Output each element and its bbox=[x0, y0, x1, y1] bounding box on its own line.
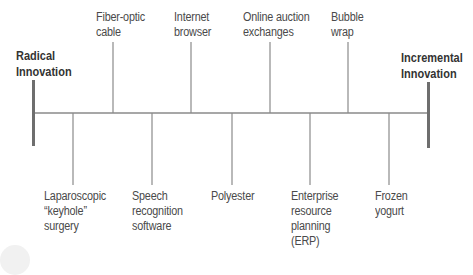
label-line: Laparoscopic bbox=[44, 189, 106, 203]
label-internet-browser: Internetbrowser bbox=[174, 10, 211, 40]
label-online-auction-exchanges: Online auctionexchanges bbox=[243, 10, 310, 40]
label-line: Online auction bbox=[243, 10, 310, 24]
label-fiber-optic-cable: Fiber-opticcable bbox=[96, 10, 145, 40]
label-line: Speech bbox=[132, 189, 168, 203]
label-line: Internet bbox=[174, 10, 209, 24]
label-line: exchanges bbox=[243, 25, 294, 39]
label-laparoscopic-surgery: Laparoscopic“keyhole”surgery bbox=[44, 189, 106, 234]
label-line: software bbox=[132, 219, 171, 233]
radical-label-line1: Radical bbox=[16, 49, 55, 63]
label-frozen-yogurt: Frozenyogurt bbox=[375, 189, 408, 219]
label-line: “keyhole” bbox=[44, 204, 87, 218]
label-line: browser bbox=[174, 25, 211, 39]
label-line: cable bbox=[96, 25, 121, 39]
label-line: wrap bbox=[331, 25, 354, 39]
incremental-label-line2: Innovation bbox=[401, 67, 457, 81]
label-line: Bubble bbox=[331, 10, 364, 24]
label-polyester: Polyester bbox=[211, 189, 254, 204]
label-line: planning bbox=[291, 219, 330, 233]
incremental-label-line1: Incremental bbox=[401, 51, 463, 65]
label-line: surgery bbox=[44, 219, 79, 233]
label-bubble-wrap: Bubblewrap bbox=[331, 10, 364, 40]
decorative-circle bbox=[0, 245, 30, 275]
incremental-innovation-label: IncrementalInnovation bbox=[401, 50, 463, 82]
label-line: Polyester bbox=[211, 189, 254, 203]
label-enterprise-resource-planning: Enterpriseresourceplanning(ERP) bbox=[291, 189, 338, 249]
label-line: recognition bbox=[132, 204, 183, 218]
label-line: (ERP) bbox=[291, 234, 320, 248]
label-line: resource bbox=[291, 204, 332, 218]
label-line: yogurt bbox=[375, 204, 404, 218]
label-line: Fiber-optic bbox=[96, 10, 145, 24]
radical-innovation-label: RadicalInnovation bbox=[16, 48, 72, 80]
radical-label-line2: Innovation bbox=[16, 65, 72, 79]
label-line: Frozen bbox=[375, 189, 408, 203]
label-line: Enterprise bbox=[291, 189, 338, 203]
label-speech-recognition-software: Speechrecognitionsoftware bbox=[132, 189, 183, 234]
